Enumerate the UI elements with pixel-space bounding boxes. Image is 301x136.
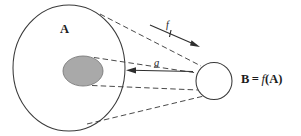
map-g-arrow-shaft [131,70,193,71]
map-f-label: f [166,20,169,31]
map-f-arrow-head [190,40,200,47]
projection-line-lower-inner [92,86,198,91]
map-f-arrow-shaft [150,25,196,45]
function-mapping-figure: A f g B=f(A) [0,0,301,136]
map-f-label-tick [170,30,172,37]
diagram-canvas [0,0,301,136]
projection-line-lower-outer [87,96,204,124]
set-b-circle [196,63,232,100]
set-b-argument: A [269,72,278,86]
set-b-equals-sign: = [249,72,261,86]
map-g-arrow [126,67,193,73]
set-b-label: B=f(A) [241,73,282,86]
set-a-label: A [60,23,69,36]
set-b-close-paren: ) [278,72,282,86]
map-g-arrow-head [126,67,136,73]
map-g-label: g [154,58,159,69]
projection-lines-group [87,14,204,124]
subset-region-ellipse [63,56,103,86]
